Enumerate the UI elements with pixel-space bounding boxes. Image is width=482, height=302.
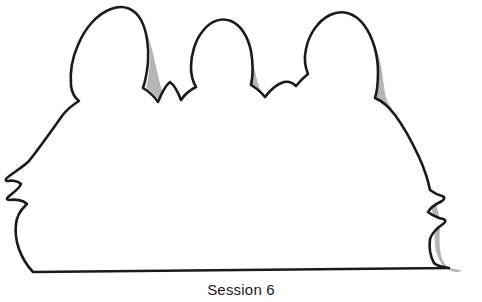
contour-drawing-canvas <box>0 0 482 302</box>
caption-label: Session 6 <box>0 281 482 298</box>
